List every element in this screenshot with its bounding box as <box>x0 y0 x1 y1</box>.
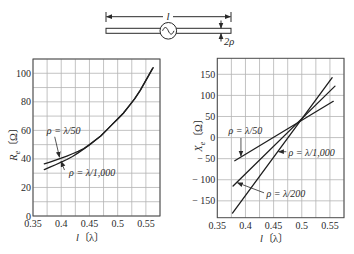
annotation-label: ρ = λ/1,000 <box>68 167 115 178</box>
y-tick-label: 40 <box>21 153 31 164</box>
x-tick-label: 0.45 <box>265 220 283 231</box>
plot-frame <box>33 59 160 216</box>
x-tick-label: 0.55 <box>137 218 155 229</box>
y-tick-label: 100 <box>16 68 31 79</box>
annotation-leader-arrow <box>55 137 60 157</box>
reactance-chart: ρ = λ/50ρ = λ/1,000ρ = λ/200 0.350.40.45… <box>192 58 344 244</box>
annotation-layer: ρ = λ/50ρ = λ/1,000ρ = λ/200 <box>228 125 335 198</box>
x-tick-label: 0.45 <box>81 218 99 229</box>
y-tick-label: 20 <box>21 182 31 193</box>
y-tick-label: 0 <box>210 132 215 143</box>
x-tick-label: 0.4 <box>239 220 252 231</box>
x-tick-label: 0.5 <box>111 218 124 229</box>
x-axis-label: l〔λ〕 <box>260 232 288 244</box>
x-tick-label: 0.4 <box>55 218 68 229</box>
radius-label: 2ρ <box>224 36 234 47</box>
y-tick-label: 50 <box>205 111 215 122</box>
series-1-000 <box>44 68 152 169</box>
resistance-chart: ρ = λ/50ρ = λ/1,000 0.350.40.450.50.5502… <box>7 59 160 243</box>
x-tick-label: 0.55 <box>321 220 339 231</box>
series-layer <box>44 68 153 170</box>
x-axis-label: l〔λ〕 <box>76 231 104 243</box>
y-tick-label: 150 <box>200 69 215 80</box>
dipole-impedance-figure: l 2ρ ρ = λ/50ρ = λ/1,000 0.350.40.450.50… <box>0 0 354 254</box>
annotation-label: ρ = λ/1,000 <box>288 147 335 158</box>
y-tick-label: − 100 <box>192 174 215 185</box>
y-tick-label: − 50 <box>197 153 215 164</box>
length-label: l <box>166 10 169 22</box>
y-tick-label: 60 <box>21 125 31 136</box>
x-tick-label: 0.5 <box>296 220 309 231</box>
grid <box>33 59 160 216</box>
annotation-label: ρ = λ/200 <box>266 188 306 199</box>
annotation-label: ρ = λ/50 <box>46 125 81 136</box>
annotation-label: ρ = λ/50 <box>228 125 263 136</box>
dipole-diagram: l 2ρ <box>106 10 234 47</box>
y-tick-label: 100 <box>200 90 215 101</box>
x-tick-label: 0.35 <box>209 220 227 231</box>
annotation-leader-arrow <box>237 183 264 193</box>
y-axis-label: Re〔Ω〕 <box>7 123 22 162</box>
length-dimension: l <box>106 10 231 23</box>
y-tick-label: − 150 <box>192 195 215 206</box>
ac-source-icon <box>160 23 177 40</box>
y-tick-label: 80 <box>21 96 31 107</box>
y-tick-label: 0 <box>26 211 31 222</box>
